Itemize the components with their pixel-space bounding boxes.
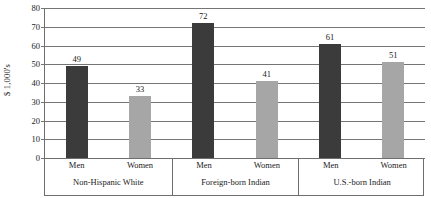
bar-value-label: 33 (136, 84, 145, 94)
subcategory-label: Men (173, 160, 236, 170)
category-group-label: U.S.-born Indian (299, 177, 425, 187)
y-axis-tick-70: 70 (32, 22, 41, 32)
y-axis-tick-10: 10 (32, 134, 41, 144)
bar-value-label: 41 (262, 69, 271, 79)
y-axis-tick-labels: 01020304050607080 (16, 8, 40, 158)
category-group-label: Foreign-born Indian (173, 177, 299, 187)
bar: 51 (382, 62, 404, 158)
bar-value-label: 61 (326, 32, 335, 42)
category-group: MenWomenNon-Hispanic White (45, 158, 172, 195)
subcategory-labels: MenWomen (173, 160, 299, 170)
bar: 49 (66, 66, 88, 158)
category-group: MenWomenForeign-born Indian (172, 158, 299, 195)
category-axis-box: MenWomenNon-Hispanic WhiteMenWomenForeig… (44, 158, 424, 196)
y-axis-title: $ 1,000's (0, 0, 14, 160)
y-axis-tick-50: 50 (32, 59, 41, 69)
bar-value-label: 49 (72, 54, 81, 64)
subcategory-label: Women (108, 160, 171, 170)
bars-container: 493372416151 (45, 8, 425, 158)
subcategory-label: Men (45, 160, 108, 170)
y-axis-tick-20: 20 (32, 116, 41, 126)
category-group: MenWomenU.S.-born Indian (298, 158, 425, 195)
bar: 61 (319, 44, 341, 158)
bar: 33 (129, 96, 151, 158)
y-axis-tick-60: 60 (32, 41, 41, 51)
subcategory-labels: MenWomen (45, 160, 172, 170)
bar: 41 (256, 81, 278, 158)
bar-chart: $ 1,000's 01020304050607080 493372416151… (0, 0, 431, 198)
bar-value-label: 51 (389, 50, 398, 60)
category-group-label: Non-Hispanic White (45, 177, 172, 187)
subcategory-label: Women (362, 160, 425, 170)
bar-value-label: 72 (199, 11, 208, 21)
y-axis-tick-0: 0 (36, 153, 40, 163)
y-axis-tick-30: 30 (32, 97, 41, 107)
subcategory-labels: MenWomen (299, 160, 425, 170)
plot-area: 493372416151 (44, 8, 425, 158)
subcategory-label: Women (235, 160, 298, 170)
bar: 72 (192, 23, 214, 158)
y-axis-tick-40: 40 (32, 78, 41, 88)
y-axis-title-text: $ 1,000's (2, 64, 12, 96)
subcategory-label: Men (299, 160, 362, 170)
y-axis-tick-80: 80 (32, 3, 41, 13)
